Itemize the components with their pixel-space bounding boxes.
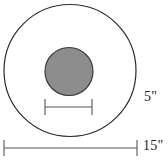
inner-diameter-dimension [45, 99, 92, 115]
inner-circle [45, 48, 93, 96]
outer-diameter-label: 15" [143, 139, 163, 153]
outer-diameter-dimension [4, 140, 137, 156]
circle-dimension-diagram: 5" 15" [0, 0, 168, 165]
inner-diameter-label: 5" [144, 90, 157, 104]
